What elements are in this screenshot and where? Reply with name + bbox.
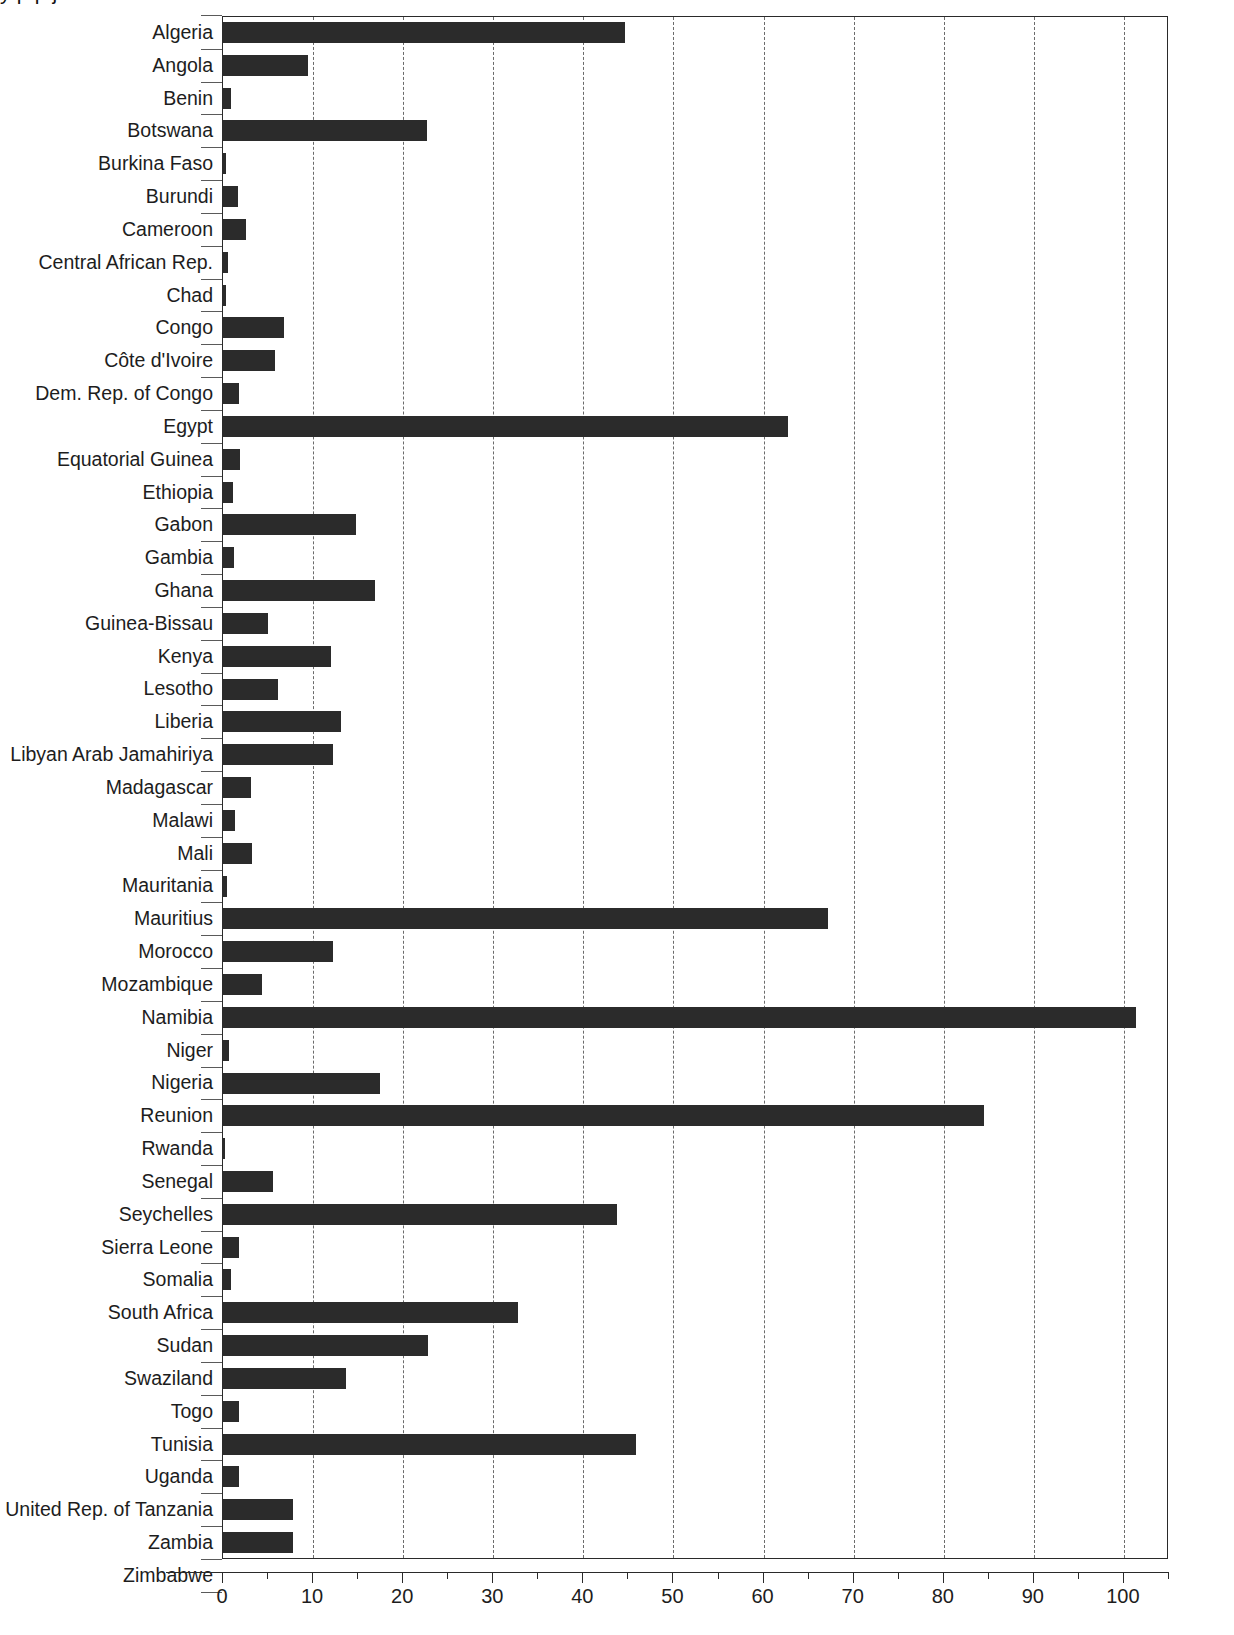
bar-row: [223, 477, 1167, 510]
bar[interactable]: [223, 1105, 984, 1126]
category-label-row: Somalia: [0, 1263, 222, 1296]
category-label: Reunion: [140, 1104, 213, 1127]
bar-row: [223, 805, 1167, 838]
category-label-row: Morocco: [0, 935, 222, 968]
category-label: Seychelles: [119, 1203, 213, 1226]
category-label-row: Gabon: [0, 508, 222, 541]
bar-row: [223, 1461, 1167, 1494]
bar[interactable]: [223, 120, 427, 141]
bar[interactable]: [223, 514, 356, 535]
bar[interactable]: [223, 22, 625, 43]
bar-row: [223, 17, 1167, 50]
category-label: Mozambique: [101, 973, 213, 996]
category-label: Ethiopia: [143, 481, 213, 504]
bar[interactable]: [223, 1434, 636, 1455]
category-label-row: Senegal: [0, 1165, 222, 1198]
bar[interactable]: [223, 941, 333, 962]
category-label-row: Sudan: [0, 1329, 222, 1362]
bar[interactable]: [223, 810, 235, 831]
bar[interactable]: [223, 1269, 231, 1290]
bar[interactable]: [223, 580, 375, 601]
category-label-row: Botswana: [0, 114, 222, 147]
bar-row: [223, 214, 1167, 247]
bar[interactable]: [223, 1466, 239, 1487]
bar[interactable]: [223, 317, 284, 338]
x-tick-minor: [1168, 1572, 1169, 1579]
bar[interactable]: [223, 679, 278, 700]
bar[interactable]: [223, 1204, 617, 1225]
category-label-row: Malawi: [0, 804, 222, 837]
bar[interactable]: [223, 383, 239, 404]
bar[interactable]: [223, 1171, 273, 1192]
bar[interactable]: [223, 547, 234, 568]
bar-row: [223, 542, 1167, 575]
category-label-row: Reunion: [0, 1099, 222, 1132]
category-label: Nigeria: [151, 1071, 213, 1094]
bar[interactable]: [223, 1401, 239, 1422]
bar[interactable]: [223, 777, 251, 798]
category-label: Sierra Leone: [101, 1236, 213, 1259]
bar[interactable]: [223, 219, 246, 240]
bar[interactable]: [223, 974, 262, 995]
bar-rows: [223, 17, 1167, 1558]
bar[interactable]: [223, 908, 828, 929]
bar[interactable]: [223, 1237, 239, 1258]
bar[interactable]: [223, 1532, 293, 1553]
category-label: Senegal: [141, 1170, 213, 1193]
category-label-row: Ethiopia: [0, 476, 222, 509]
chart-page: y p p j AlgeriaAngolaBeninBotswanaBurkin…: [0, 0, 1234, 1635]
x-tick-label: 60: [751, 1585, 773, 1608]
bar[interactable]: [223, 1073, 380, 1094]
bar[interactable]: [223, 1335, 428, 1356]
bar-row: [223, 345, 1167, 378]
bar[interactable]: [223, 876, 227, 897]
bar[interactable]: [223, 55, 308, 76]
bar[interactable]: [223, 711, 341, 732]
x-tick-90: [1033, 1572, 1034, 1583]
bar[interactable]: [223, 1138, 225, 1159]
bar[interactable]: [223, 646, 331, 667]
category-label-row: Burkina Faso: [0, 147, 222, 180]
bar[interactable]: [223, 613, 268, 634]
x-tick-minor: [267, 1572, 268, 1579]
bar[interactable]: [223, 416, 788, 437]
bar-row: [223, 115, 1167, 148]
category-label-row: Sierra Leone: [0, 1231, 222, 1264]
bar[interactable]: [223, 1007, 1136, 1028]
bar[interactable]: [223, 843, 252, 864]
category-label-row: Congo: [0, 311, 222, 344]
category-label-row: Central African Rep.: [0, 246, 222, 279]
bar[interactable]: [223, 1040, 229, 1061]
bar-row: [223, 903, 1167, 936]
bar[interactable]: [223, 449, 240, 470]
bar-row: [223, 378, 1167, 411]
bar[interactable]: [223, 1302, 518, 1323]
x-tick-minor: [988, 1572, 989, 1579]
category-label-row: Uganda: [0, 1460, 222, 1493]
category-label: Morocco: [138, 940, 213, 963]
bar-row: [223, 706, 1167, 739]
bar[interactable]: [223, 1499, 293, 1520]
bar-row: [223, 838, 1167, 871]
category-label: Angola: [152, 54, 213, 77]
bar[interactable]: [223, 88, 231, 109]
bar[interactable]: [223, 482, 233, 503]
bar[interactable]: [223, 153, 226, 174]
bar[interactable]: [223, 350, 275, 371]
category-label-row: Cameroon: [0, 213, 222, 246]
x-tick-label: 50: [661, 1585, 683, 1608]
category-label-row: Equatorial Guinea: [0, 443, 222, 476]
x-tick-minor: [627, 1572, 628, 1579]
bar[interactable]: [223, 252, 228, 273]
x-tick-label: 40: [571, 1585, 593, 1608]
bar[interactable]: [223, 186, 238, 207]
category-label-row: Rwanda: [0, 1132, 222, 1165]
bar[interactable]: [223, 285, 226, 306]
bar-row: [223, 1330, 1167, 1363]
category-label: Egypt: [163, 415, 213, 438]
category-label-row: Mozambique: [0, 968, 222, 1001]
bar[interactable]: [223, 744, 333, 765]
bar-row: [223, 1199, 1167, 1232]
category-label: Mali: [177, 842, 213, 865]
bar[interactable]: [223, 1368, 346, 1389]
